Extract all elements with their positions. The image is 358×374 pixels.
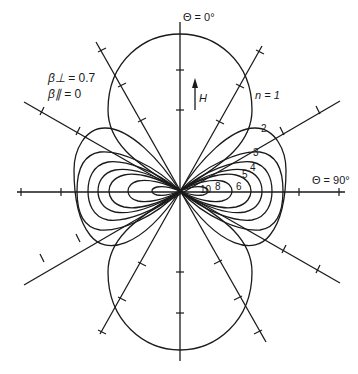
polar-plot: [0, 0, 358, 374]
theta-0-label: Θ = 0°: [183, 12, 215, 23]
beta-perp-label: β⊥ = 0.7: [48, 72, 95, 84]
curve-label-10: 10: [200, 185, 211, 195]
beta-par-label: β∥ = 0: [48, 88, 81, 100]
curve-label-3: 3: [253, 148, 259, 158]
curve-label-8: 8: [215, 182, 221, 192]
curve-label-5: 5: [242, 170, 248, 180]
harmonic-label-n1: n = 1: [255, 90, 280, 101]
curve-label-2: 2: [261, 124, 267, 134]
arrow-head-icon: [192, 78, 198, 88]
field-label: H: [199, 93, 207, 104]
curve-label-4: 4: [250, 163, 256, 173]
diagram-root: Θ = 0° Θ = 90° H β⊥ = 0.7 β∥ = 0 n = 1 2…: [0, 0, 358, 374]
theta-90-label: Θ = 90°: [312, 175, 350, 186]
curve-label-6: 6: [236, 182, 242, 192]
